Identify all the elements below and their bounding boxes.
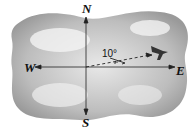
east-label: E [176, 64, 185, 77]
angle-label: 10° [102, 49, 117, 59]
south-label: S [82, 116, 89, 129]
north-label: N [82, 2, 91, 15]
west-label: W [24, 61, 36, 74]
